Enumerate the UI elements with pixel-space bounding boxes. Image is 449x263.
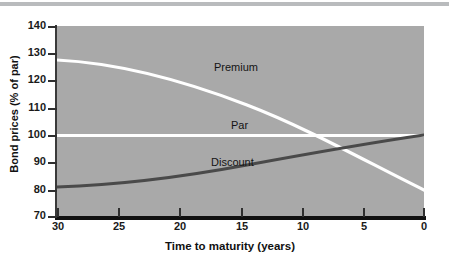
y-tick-140 bbox=[48, 26, 57, 28]
x-tick-15 bbox=[241, 208, 243, 217]
x-tick-label-25: 25 bbox=[104, 220, 134, 232]
y-axis-title: Bond prices (% of par) bbox=[8, 34, 20, 194]
x-tick-0 bbox=[423, 208, 425, 217]
y-tick-90 bbox=[48, 162, 57, 164]
x-tick-label-20: 20 bbox=[165, 220, 195, 232]
x-tick-30 bbox=[57, 208, 59, 217]
x-tick-label-15: 15 bbox=[227, 220, 257, 232]
y-tick-130 bbox=[48, 53, 57, 55]
annotation-premium: Premium bbox=[214, 61, 258, 73]
x-tick-20 bbox=[179, 208, 181, 217]
y-tick-100 bbox=[48, 135, 57, 137]
y-tick-70 bbox=[48, 216, 57, 218]
y-tick-80 bbox=[48, 190, 57, 192]
annotation-discount: Discount bbox=[211, 156, 254, 168]
y-tick-label-70: 70 bbox=[12, 210, 46, 221]
y-tick-120 bbox=[48, 80, 57, 82]
x-tick-label-30: 30 bbox=[43, 220, 73, 232]
x-tick-25 bbox=[118, 208, 120, 217]
x-tick-label-0: 0 bbox=[409, 220, 439, 232]
x-tick-10 bbox=[302, 208, 304, 217]
plot-area: Premium Par Discount bbox=[57, 26, 424, 217]
x-axis-title: Time to maturity (years) bbox=[115, 240, 345, 252]
bond-price-chart: Premium Par Discount 140 130 120 110 100… bbox=[0, 0, 449, 263]
x-tick-5 bbox=[363, 208, 365, 217]
y-tick-label-140: 140 bbox=[12, 20, 46, 31]
x-tick-label-10: 10 bbox=[288, 220, 318, 232]
annotation-par: Par bbox=[231, 119, 248, 131]
x-tick-label-5: 5 bbox=[349, 220, 379, 232]
y-tick-110 bbox=[48, 108, 57, 110]
figure-root: Premium Par Discount 140 130 120 110 100… bbox=[0, 0, 449, 263]
